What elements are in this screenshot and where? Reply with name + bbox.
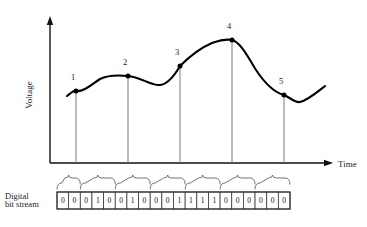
bit-value: 0 (271, 196, 275, 205)
bit-group-brace (220, 175, 255, 189)
bit-value: 0 (61, 196, 65, 205)
sample-label-4: 4 (227, 21, 232, 31)
bit-stream-cells: 00010010001111000000 (57, 192, 290, 209)
bit-value: 0 (84, 196, 88, 205)
sample-label-2: 2 (123, 57, 127, 67)
bit-value: 1 (212, 196, 216, 205)
bit-group-brace (80, 175, 115, 189)
x-axis-label: Time (338, 159, 357, 169)
sample-label-1: 1 (71, 72, 75, 82)
bit-group-brace (115, 175, 150, 189)
bit-value: 1 (189, 196, 193, 205)
bit-value: 1 (131, 196, 135, 205)
sample-label-3: 3 (175, 47, 179, 57)
bit-value: 0 (259, 196, 263, 205)
sample-points-group: 12345 (71, 21, 287, 98)
bit-stream-label-line2: bit stream (5, 199, 39, 209)
bit-value: 0 (224, 196, 228, 205)
bit-value: 0 (108, 196, 112, 205)
y-axis-label: Voltage (24, 81, 34, 108)
bit-value: 0 (236, 196, 240, 205)
y-axis-arrow-icon (47, 16, 53, 25)
sample-dot-1 (74, 89, 79, 94)
y-axis (47, 16, 53, 163)
sample-dot-5 (282, 93, 287, 98)
bit-value: 0 (119, 196, 123, 205)
sample-label-5: 5 (279, 76, 283, 86)
analog-signal-curve (67, 40, 325, 103)
x-axis (50, 160, 333, 166)
sampling-diagram: Voltage Time 12345 Digital bit stream 00… (0, 0, 367, 227)
bit-value: 0 (142, 196, 146, 205)
sample-dot-2 (126, 74, 131, 79)
sample-dot-3 (178, 64, 183, 69)
bit-group-brace (255, 175, 290, 189)
bit-value: 0 (73, 196, 77, 205)
bit-group-braces (57, 175, 290, 189)
x-axis-arrow-icon (324, 160, 333, 166)
diagram-canvas: Voltage Time 12345 Digital bit stream 00… (0, 0, 367, 227)
bit-value: 1 (96, 196, 100, 205)
bit-value: 0 (166, 196, 170, 205)
bit-group-brace (185, 175, 220, 189)
bit-value: 1 (177, 196, 181, 205)
bit-group-brace (57, 175, 80, 189)
sample-drop-lines (76, 40, 284, 163)
bit-value: 0 (282, 196, 286, 205)
bit-group-brace (150, 175, 185, 189)
bit-value: 1 (201, 196, 205, 205)
bit-value: 0 (247, 196, 251, 205)
sample-dot-4 (230, 38, 235, 43)
bit-value: 0 (154, 196, 158, 205)
